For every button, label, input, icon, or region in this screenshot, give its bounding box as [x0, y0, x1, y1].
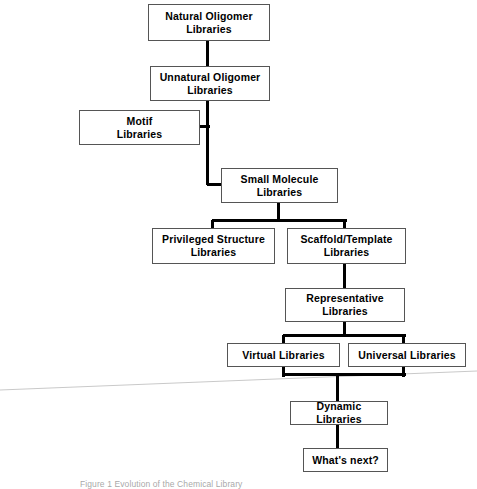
connector-unnatural-down-trunk [206, 101, 209, 185]
node-label-dynamic: Dynamic Libraries [291, 400, 387, 426]
node-label-privileged_structure: Privileged Structure Libraries [158, 233, 269, 259]
connector-motif-join-stub [200, 125, 210, 128]
node-label-motif: Motif Libraries [113, 115, 167, 141]
connector-natural-to-unnatural [206, 41, 209, 66]
connector-dynamic-to-whats-next [336, 425, 339, 448]
node-privileged_structure: Privileged Structure Libraries [152, 228, 275, 264]
connector-split-bar-level3 [212, 219, 347, 222]
node-label-small_molecule: Small Molecule Libraries [237, 173, 323, 199]
node-virtual: Virtual Libraries [227, 343, 340, 367]
node-label-representative: Representative Libraries [302, 292, 387, 318]
node-dynamic: Dynamic Libraries [290, 401, 388, 425]
figure-caption: Figure 1 Evolution of the Chemical Libra… [80, 479, 410, 489]
node-universal: Universal Libraries [348, 343, 466, 367]
connector-loop-to-dynamic [336, 374, 339, 401]
connector-loop-bottom-bar [283, 373, 406, 376]
node-label-universal: Universal Libraries [354, 349, 459, 362]
node-label-virtual: Virtual Libraries [238, 349, 328, 362]
node-motif: Motif Libraries [79, 110, 200, 145]
node-label-unnatural_oligomer: Unnatural Oligomer Libraries [156, 71, 265, 97]
connector-scaffold-to-representative [343, 264, 346, 289]
node-natural_oligomer: Natural Oligomer Libraries [148, 4, 270, 41]
node-whats_next: What's next? [303, 448, 388, 472]
node-representative: Representative Libraries [285, 288, 405, 322]
node-label-whats_next: What's next? [308, 454, 383, 467]
connector-loop-top-bar [283, 334, 406, 337]
node-scaffold_template: Scaffold/Template Libraries [287, 228, 406, 264]
figure-canvas: Natural Oligomer LibrariesUnnatural Olig… [0, 0, 477, 489]
node-small_molecule: Small Molecule Libraries [221, 168, 338, 203]
node-unnatural_oligomer: Unnatural Oligomer Libraries [150, 66, 270, 101]
node-label-natural_oligomer: Natural Oligomer Libraries [161, 10, 257, 36]
node-label-scaffold_template: Scaffold/Template Libraries [296, 233, 396, 259]
